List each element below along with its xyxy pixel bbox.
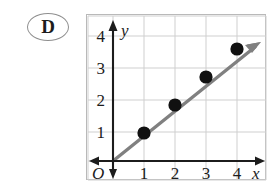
x-axis-label: x	[251, 164, 260, 181]
x-tick-label: 3	[202, 164, 211, 181]
coordinate-graph: 4 3 2 1 1 2 3 4 O y x	[86, 14, 266, 180]
y-axis-label: y	[119, 21, 129, 40]
y-tick-label: 1	[97, 123, 106, 142]
data-point	[199, 70, 212, 83]
data-point	[137, 126, 150, 139]
data-points	[137, 42, 243, 139]
x-tick-label: 1	[140, 164, 149, 181]
y-tick-label: 3	[97, 59, 106, 78]
data-point	[168, 98, 181, 111]
grid-horizontal-lines	[88, 16, 266, 180]
trend-line	[113, 42, 261, 161]
x-tick-label: 4	[233, 164, 242, 181]
y-tick-label: 4	[97, 27, 106, 46]
y-tick-label: 2	[97, 91, 106, 110]
x-tick-label: 2	[171, 164, 180, 181]
origin-label: O	[92, 164, 104, 181]
graph-canvas: 4 3 2 1 1 2 3 4 O y x	[87, 15, 267, 181]
answer-choice-letter: D	[28, 14, 68, 40]
grid-vertical-lines	[88, 16, 266, 180]
answer-choice-oval[interactable]: D	[27, 13, 69, 41]
data-point	[230, 42, 243, 55]
